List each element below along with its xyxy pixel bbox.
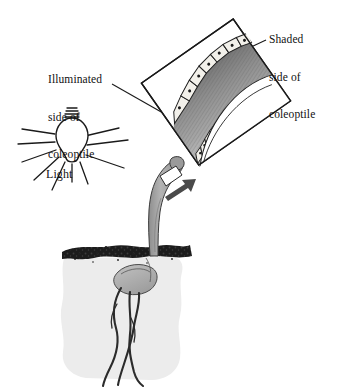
illuminated-label-line-1: Illuminated xyxy=(48,73,102,86)
shaded-label-line-2: side of xyxy=(269,71,315,84)
illuminated-label-line-3: coleoptile xyxy=(48,148,102,161)
shaded-label-line-1: Shaded xyxy=(269,33,315,46)
shaded-side-label: Shaded side of coleoptile xyxy=(269,8,315,146)
coleoptile-shoot xyxy=(149,157,185,256)
shaded-label-line-3: coleoptile xyxy=(269,108,315,121)
illuminated-side-label: Illuminated side of coleoptile xyxy=(48,48,102,186)
phototropism-figure: Shaded side of coleoptile Illuminated si… xyxy=(0,0,339,392)
light-label: Light xyxy=(46,168,73,181)
illuminated-label-line-2: side of xyxy=(48,111,102,124)
